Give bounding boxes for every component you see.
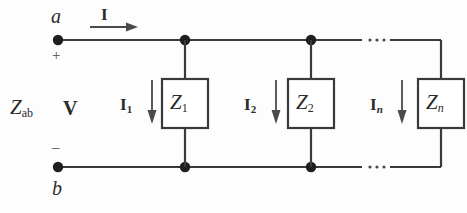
branch-2-current-label: I2 [244, 96, 256, 115]
terminal-node-a [53, 35, 63, 45]
total-current-label: I [101, 6, 108, 23]
source-voltage-label: V [63, 98, 77, 118]
circuit-diagram: a + – b Zab V I I1 I2 In Z1 Z2 Zn [0, 0, 467, 213]
polarity-plus-sign: + [52, 48, 60, 63]
branch-2-current-subscript: 2 [251, 103, 257, 115]
terminal-label-a: a [51, 6, 61, 26]
terminal-node-b [53, 162, 63, 172]
impedance-label-2: Z2 [296, 92, 314, 114]
branch-n-current-arrow-icon [398, 80, 407, 124]
polarity-minus-sign: – [52, 140, 60, 155]
branch-2-current-symbol: I [244, 95, 251, 114]
impedance-label-n: Zn [426, 92, 444, 114]
branch-n-current-label: In [370, 96, 383, 115]
terminal-label-b: b [52, 178, 62, 198]
branch-1-current-symbol: I [120, 95, 127, 114]
source-impedance-subscript: ab [22, 106, 33, 120]
total-current-arrow-icon [90, 23, 138, 32]
branch-1-current-label: I1 [120, 96, 132, 115]
bottom-rail-ellipsis [368, 165, 385, 168]
source-impedance-symbol: Z [10, 95, 22, 119]
impedance-subscript-2: 2 [308, 101, 314, 115]
branch-n-current-subscript: n [377, 103, 383, 115]
impedance-subscript-n: n [438, 101, 444, 115]
impedance-symbol-1: Z [170, 90, 182, 114]
impedance-symbol-n: Z [426, 90, 438, 114]
branch-n-current-symbol: I [370, 95, 377, 114]
branch-1-current-subscript: 1 [127, 103, 133, 115]
source-impedance-label: Zab [10, 97, 33, 119]
branch-2-current-arrow-icon [272, 80, 281, 124]
impedance-subscript-1: 1 [182, 101, 188, 115]
branch-1-current-arrow-icon [148, 80, 157, 124]
impedance-label-1: Z1 [170, 92, 188, 114]
impedance-symbol-2: Z [296, 90, 308, 114]
top-rail-ellipsis [368, 38, 385, 41]
